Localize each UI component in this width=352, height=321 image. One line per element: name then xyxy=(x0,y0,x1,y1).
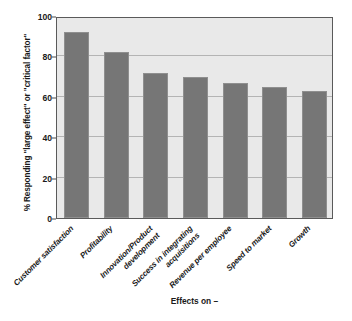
x-axis-title: Effects on – xyxy=(56,296,333,306)
y-axis-title: % Responding "large effect" or "critical… xyxy=(23,18,32,228)
y-tick-label: 100 xyxy=(12,12,52,22)
y-tick-label: 80 xyxy=(12,52,52,62)
bar xyxy=(183,77,208,218)
bar xyxy=(104,52,129,218)
bar-chart-figure: % Responding "large effect" or "critical… xyxy=(0,0,352,321)
bar xyxy=(302,91,327,218)
x-tick-label: Profitability xyxy=(79,224,115,260)
bar xyxy=(143,73,168,218)
bar-series xyxy=(57,18,332,218)
y-tick-label: 60 xyxy=(12,93,52,103)
y-tick-label: 20 xyxy=(12,174,52,184)
x-tick-label: Growth xyxy=(287,224,313,250)
y-tick-label: 0 xyxy=(12,214,52,224)
x-tick-label: Customer satisfaction xyxy=(12,224,76,288)
bar xyxy=(262,87,287,218)
bar xyxy=(64,32,89,218)
plot-area xyxy=(56,17,333,219)
bar xyxy=(223,83,248,218)
y-tick-label: 40 xyxy=(12,133,52,143)
